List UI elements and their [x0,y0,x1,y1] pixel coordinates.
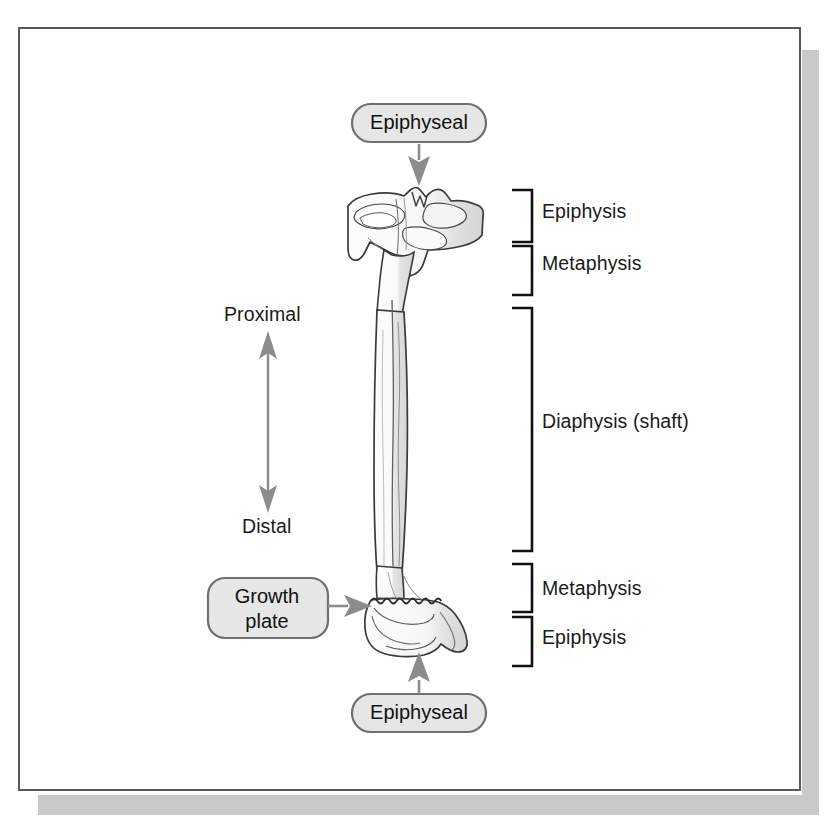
callout-growth-plate-line1: Growth [235,585,299,607]
label-epiphysis-distal: Epiphysis [542,626,626,649]
bracket-epiphysis-distal [512,617,532,666]
callout-growth-plate-line2: plate [245,610,288,632]
callout-growth-plate-label: Growthplate [212,584,322,634]
orientation-axis-arrow [259,331,277,513]
label-diaphysis: Diaphysis (shaft) [542,410,689,433]
bracket-group [512,190,532,666]
figure-root: Epiphysis Metaphysis Diaphysis (shaft) M… [0,0,834,825]
callout-epiphyseal-bottom-label: Epiphyseal [364,701,474,724]
tibia-bone-illustration [348,187,483,656]
label-metaphysis-proximal: Metaphysis [542,252,642,275]
distal-epiphysis-outline [365,598,467,656]
label-metaphysis-distal: Metaphysis [542,577,642,600]
callout-epiphyseal-top-label: Epiphyseal [364,111,474,134]
label-proximal: Proximal [224,303,301,326]
label-distal: Distal [242,515,291,538]
distal-detail-line-4 [404,576,422,600]
bracket-metaphysis-proximal [512,246,532,295]
label-epiphysis-proximal: Epiphysis [542,200,626,223]
diaphysis-outline [374,310,407,574]
bracket-metaphysis-distal [512,564,532,612]
proximal-metaphysis-outline [377,250,414,316]
bracket-diaphysis [512,308,532,551]
medial-facet-contour [360,213,396,228]
bracket-epiphysis-proximal [512,190,532,242]
callout-epiphyseal-top-arrow-head [408,156,430,186]
